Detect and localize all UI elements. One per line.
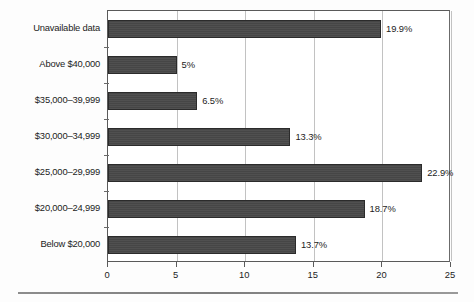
y-axis-label: Above $40,000 bbox=[0, 59, 100, 69]
bar-value-label: 18.7% bbox=[370, 204, 396, 214]
bar-value-label: 13.3% bbox=[295, 132, 321, 142]
figure-bar-chart: Unavailable dataAbove $40,000$35,000–39,… bbox=[0, 0, 474, 302]
y-axis-label: $30,000–34,999 bbox=[0, 131, 100, 141]
x-axis-tick bbox=[107, 262, 108, 267]
y-axis-label: Below $20,000 bbox=[0, 239, 100, 249]
y-axis-label: $25,000–29,999 bbox=[0, 167, 100, 177]
x-axis-label-group: 0510152025 bbox=[107, 269, 474, 283]
bar-value-label: 6.5% bbox=[202, 96, 223, 106]
x-axis-tick bbox=[450, 262, 451, 267]
bar bbox=[108, 92, 197, 110]
y-axis-tick bbox=[104, 47, 109, 48]
x-axis-tick bbox=[244, 262, 245, 267]
x-axis-label: 0 bbox=[92, 269, 122, 280]
x-axis-tick-group bbox=[107, 262, 450, 268]
x-axis-label: 15 bbox=[298, 269, 328, 280]
gridline-20 bbox=[382, 11, 383, 261]
bar-value-label: 19.9% bbox=[386, 24, 412, 34]
y-axis-tick bbox=[104, 119, 109, 120]
x-axis-tick bbox=[313, 262, 314, 267]
bar-value-label: 5% bbox=[182, 60, 195, 70]
y-axis-label: $20,000–24,999 bbox=[0, 203, 100, 213]
y-axis-label: Unavailable data bbox=[0, 23, 100, 33]
gridline-25 bbox=[451, 11, 452, 261]
plot-area: 19.9%5%6.5%13.3%22.9%18.7%13.7% bbox=[107, 10, 450, 262]
y-axis-tick bbox=[104, 155, 109, 156]
bar bbox=[108, 236, 296, 254]
x-axis-label: 10 bbox=[229, 269, 259, 280]
x-axis-tick bbox=[176, 262, 177, 267]
bar bbox=[108, 128, 290, 146]
bar-value-label: 13.7% bbox=[301, 240, 327, 250]
bar-value-label: 22.9% bbox=[427, 168, 453, 178]
bar bbox=[108, 164, 422, 182]
x-axis-label: 5 bbox=[161, 269, 191, 280]
bar bbox=[108, 20, 381, 38]
y-axis-label: $35,000–39,999 bbox=[0, 95, 100, 105]
y-axis-tick bbox=[104, 83, 109, 84]
footer-rule bbox=[18, 292, 458, 294]
bar bbox=[108, 56, 177, 74]
y-axis-tick bbox=[104, 227, 109, 228]
x-axis-label: 25 bbox=[435, 269, 465, 280]
y-axis-label-group: Unavailable dataAbove $40,000$35,000–39,… bbox=[0, 10, 100, 262]
x-axis-tick bbox=[381, 262, 382, 267]
plot-inner: 19.9%5%6.5%13.3%22.9%18.7%13.7% bbox=[108, 11, 449, 261]
bar bbox=[108, 200, 365, 218]
y-axis-tick bbox=[104, 191, 109, 192]
x-axis-label: 20 bbox=[366, 269, 396, 280]
